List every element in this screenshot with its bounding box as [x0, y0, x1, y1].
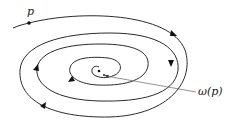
spiral-diagram: p ω(p)	[0, 0, 237, 125]
start-point-dot	[27, 21, 31, 25]
arrow-icon-outer-right	[170, 30, 177, 36]
arrow-icon-left-upper	[33, 64, 39, 71]
limit-point-label: ω(p)	[198, 86, 223, 97]
start-point-label: p	[27, 6, 34, 17]
limit-point-dot	[98, 70, 101, 73]
direction-arrows	[33, 30, 177, 109]
spiral-trajectory	[0, 0, 237, 125]
arrow-icon-center-left	[68, 76, 75, 82]
trajectory-curve	[13, 16, 187, 117]
arrow-icon-inner-right	[168, 60, 174, 67]
arrow-icon-left-lower	[40, 102, 46, 109]
